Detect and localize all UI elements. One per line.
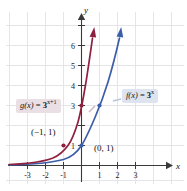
x-tick-label-neg1: -1 xyxy=(60,171,67,180)
x-tick-label-1: 1 xyxy=(98,171,102,180)
point-label-g: (−1, 1) xyxy=(31,127,56,137)
callout-g-leader xyxy=(89,106,95,112)
y-tick-label-6: 6 xyxy=(71,42,75,51)
callout-g-function-name: g(x) xyxy=(20,100,34,110)
point-label-f: (0, 1) xyxy=(94,143,114,153)
callout-g-exponent: x+1 xyxy=(47,98,57,105)
y-tick-label-5: 5 xyxy=(71,62,75,71)
callout-g-equals: = xyxy=(34,100,43,110)
x-tick-label-2: 2 xyxy=(116,171,120,180)
x-axis-label: x xyxy=(175,161,180,171)
graph-canvas: -3 -2 -1 1 2 3 1 3 4 5 6 y x xyxy=(0,0,187,191)
curve-g-arrow xyxy=(90,27,97,38)
callout-f-label: f(x) = 3x xyxy=(122,89,158,103)
x-tick-label-neg3: -3 xyxy=(24,171,31,180)
callout-f-function-name: f(x) xyxy=(126,90,138,100)
x-tick-label-3: 3 xyxy=(134,171,138,180)
callout-f-equals: = xyxy=(138,90,147,100)
x-tick-label-neg2: -2 xyxy=(42,171,49,180)
y-tick-label-1: 1 xyxy=(71,142,75,151)
callout-g-label: g(x) = 3x+1 xyxy=(16,99,61,113)
y-tick-label-4: 4 xyxy=(71,82,75,91)
y-axis-label: y xyxy=(83,5,88,15)
callout-f-exponent: x xyxy=(151,88,154,95)
exponential-functions-figure: -3 -2 -1 1 2 3 1 3 4 5 6 y x xyxy=(0,0,187,191)
callout-f-leader xyxy=(113,99,121,101)
y-tick-label-3: 3 xyxy=(71,102,75,111)
